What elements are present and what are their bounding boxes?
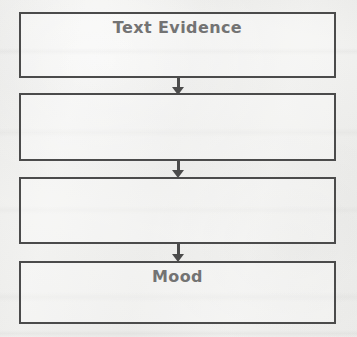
flowchart-box-label: Mood <box>21 263 334 286</box>
flowchart-box-label <box>21 179 334 183</box>
flowchart-box-mood[interactable]: Mood <box>19 261 336 324</box>
paper-texture-band <box>0 330 357 337</box>
flowchart-box-text-evidence[interactable]: Text Evidence <box>19 12 336 78</box>
flowchart-box-blank-1[interactable] <box>19 93 336 161</box>
worksheet-flowchart: Text Evidence Mood <box>0 0 357 337</box>
flow-arrow-down-icon <box>172 243 185 263</box>
arrow-shaft <box>177 243 180 255</box>
flowchart-box-blank-2[interactable] <box>19 177 336 244</box>
arrow-shaft <box>177 160 180 171</box>
flowchart-box-label <box>21 95 334 99</box>
flowchart-box-label: Text Evidence <box>21 14 334 37</box>
arrow-shaft <box>177 77 180 88</box>
